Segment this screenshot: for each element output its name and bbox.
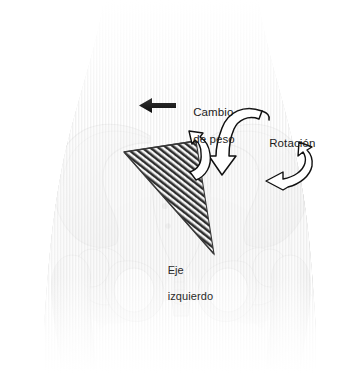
- pelvis-biomechanics-figure: Cambio de peso Rotación Eje izquierdo: [0, 0, 360, 373]
- figure-canvas: [0, 0, 360, 373]
